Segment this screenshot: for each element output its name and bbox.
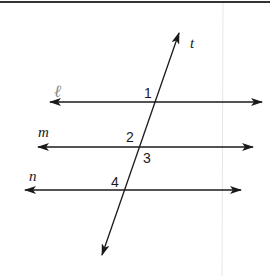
label-transversal-t: t (190, 35, 195, 51)
angle-3-label: 3 (143, 150, 151, 166)
label-line-l: ℓ (54, 81, 61, 101)
label-line-n: n (29, 168, 37, 184)
angle-4-label: 4 (111, 174, 119, 190)
label-line-m: m (38, 124, 49, 140)
angle-1-label: 1 (144, 85, 152, 101)
parallel-lines-diagram: ℓ m n t 1 2 3 4 (0, 0, 276, 276)
faint-vertical-rule (222, 3, 223, 276)
angle-2-label: 2 (126, 129, 134, 145)
transversal-t (102, 33, 179, 255)
